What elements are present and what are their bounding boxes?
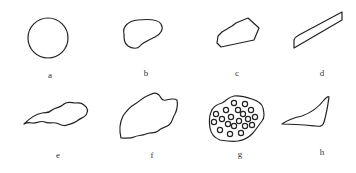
shape-rounded-irregular [124, 19, 163, 48]
panel-a: a [28, 18, 68, 80]
panel-d: d [294, 12, 342, 78]
label-a: a [48, 70, 52, 80]
pore-holes [211, 100, 257, 136]
particle-shape-diagram: a b c d e f [0, 0, 356, 173]
shape-angular-polygon [217, 18, 259, 47]
pore-icon [225, 121, 230, 126]
pore-icon [238, 130, 243, 135]
pore-icon [219, 116, 224, 121]
pore-icon [228, 114, 233, 119]
pore-icon [236, 118, 241, 123]
pore-icon [249, 122, 254, 127]
label-d: d [320, 68, 325, 78]
label-h: h [320, 147, 325, 157]
pore-icon [242, 123, 247, 128]
label-f: f [151, 150, 154, 160]
pore-icon [211, 119, 216, 124]
pore-icon [231, 100, 236, 105]
panel-b: b [124, 19, 163, 78]
panel-g: g [209, 96, 264, 159]
pore-icon [252, 114, 257, 119]
shape-irregular-wavy [120, 93, 177, 138]
label-c: c [235, 68, 239, 78]
pore-icon [213, 111, 218, 116]
pore-icon [227, 131, 232, 136]
pore-icon [245, 116, 250, 121]
shape-circle [28, 18, 68, 58]
pore-icon [240, 111, 245, 116]
pore-icon [242, 101, 247, 106]
shape-elongated-flat [294, 12, 342, 48]
pore-icon [223, 107, 228, 112]
panel-f: f [120, 93, 177, 160]
label-b: b [144, 68, 149, 78]
panel-e: e [24, 102, 87, 160]
pore-icon [217, 127, 222, 132]
pore-icon [235, 107, 240, 112]
pore-icon [248, 107, 253, 112]
label-e: e [56, 150, 60, 160]
label-g: g [238, 149, 243, 159]
pore-icon [231, 123, 236, 128]
panel-c: c [217, 18, 259, 78]
shape-triangular-sliver [282, 97, 329, 127]
panel-h: h [282, 97, 329, 157]
shape-wavy-elongated [24, 102, 87, 125]
